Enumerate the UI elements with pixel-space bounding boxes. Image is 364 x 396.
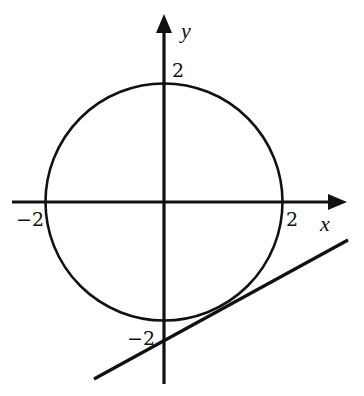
x-tick-label-negative: −2 (16, 208, 44, 230)
tangent-line (94, 240, 348, 379)
y-axis-label: y (179, 18, 191, 43)
y-axis-arrow-icon (156, 14, 172, 33)
y-tick-label-positive: 2 (172, 59, 184, 81)
x-tick-label-positive: 2 (286, 208, 298, 230)
x-axis-arrow-icon (328, 194, 347, 210)
circle-tangent-diagram: y x 2 2 −2 −2 (0, 0, 364, 396)
y-tick-label-negative: −2 (127, 327, 155, 349)
x-axis-label: x (319, 211, 330, 236)
y-axis (156, 14, 172, 384)
